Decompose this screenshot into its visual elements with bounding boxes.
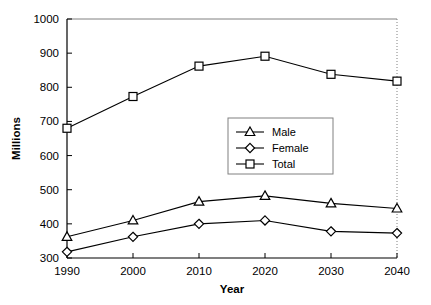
y-axis-tick-label: 600 [40, 150, 59, 162]
data-point-total [129, 93, 137, 101]
legend-label-female: Female [272, 142, 309, 154]
line-chart: 3004005006007008009001000199020002010202… [0, 0, 431, 305]
x-axis-tick-label: 2010 [186, 265, 212, 277]
data-point-total [393, 77, 401, 85]
y-axis-tick-label: 1000 [33, 13, 59, 25]
x-axis-tick-label: 1990 [54, 265, 80, 277]
x-axis-tick-label: 2030 [318, 265, 344, 277]
legend-marker-total [246, 160, 254, 168]
chart-container: 3004005006007008009001000199020002010202… [0, 0, 431, 305]
data-point-total [327, 70, 335, 78]
y-axis-tick-label: 800 [40, 81, 59, 93]
x-axis-tick-label: 2020 [252, 265, 278, 277]
y-axis-tick-label: 500 [40, 184, 59, 196]
y-axis-title: Millions [10, 117, 22, 160]
data-point-total [195, 62, 203, 70]
x-axis-title: Year [220, 283, 245, 295]
y-axis-tick-label: 900 [40, 47, 59, 59]
chart-legend: MaleFemaleTotal [228, 118, 333, 174]
y-axis-tick-label: 700 [40, 115, 59, 127]
y-axis-tick-label: 400 [40, 218, 59, 230]
y-axis-tick-label: 300 [40, 252, 59, 264]
legend-label-male: Male [272, 126, 296, 138]
data-point-total [63, 124, 71, 132]
legend-label-total: Total [272, 158, 295, 170]
x-axis-tick-label: 2040 [384, 265, 410, 277]
data-point-total [261, 52, 269, 60]
x-axis-tick-label: 2000 [120, 265, 146, 277]
